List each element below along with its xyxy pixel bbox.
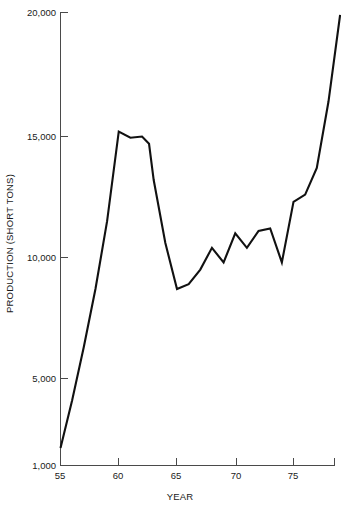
y-axis-title: PRODUCTION (SHORT TONS) [4, 174, 15, 313]
x-axis-title: YEAR [167, 491, 194, 502]
chart-container: PRODUCTION (SHORT TONS) YEAR 20,000 15,0… [0, 0, 341, 511]
y-tick-label-15000: 15,000 [27, 131, 56, 142]
y-tick-label-10000: 10,000 [27, 252, 56, 263]
x-axis-ticks [61, 458, 335, 466]
x-tick-label-65: 65 [171, 470, 182, 481]
x-tick-label-70: 70 [231, 470, 242, 481]
data-series-production [61, 15, 341, 448]
x-tick-label-60: 60 [113, 470, 124, 481]
x-tick-label-75: 75 [288, 470, 299, 481]
y-tick-label-20000: 20,000 [27, 7, 56, 18]
x-tick-label-55: 55 [55, 470, 66, 481]
y-axis-ticks [61, 13, 69, 466]
line-chart: PRODUCTION (SHORT TONS) YEAR 20,000 15,0… [0, 0, 341, 511]
y-tick-label-1000: 1,000 [32, 460, 56, 471]
y-tick-label-5000: 5,000 [32, 373, 56, 384]
